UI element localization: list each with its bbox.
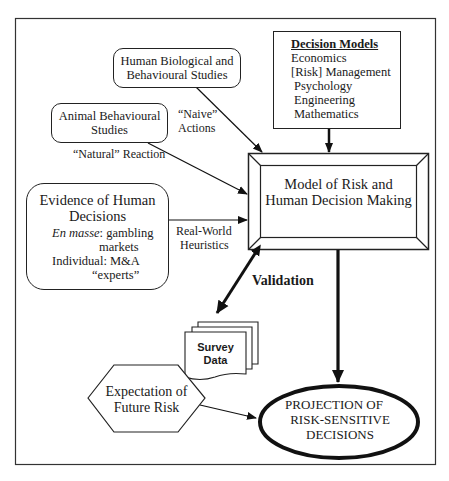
expectation-line-1: Expectation of	[88, 384, 205, 400]
validation-label: Validation	[252, 274, 314, 288]
decision-model-item: Engineering	[294, 93, 355, 107]
survey-line-1: Survey	[185, 341, 246, 354]
projection-line-1: PROJECTION OF	[268, 397, 400, 412]
human-bio-line-1: Human Biological and	[114, 54, 240, 68]
animal-line-1: Animal Behavioural	[52, 109, 167, 123]
expectation-line-2: Future Risk	[88, 400, 205, 416]
evidence-human-decisions-node: Evidence of Human Decisions En masse: ga…	[26, 183, 169, 290]
evidence-individual: Individual: M&A	[52, 254, 140, 268]
decision-model-item: Psychology	[294, 79, 352, 93]
human-bio-line-2: Behavioural Studies	[114, 68, 240, 82]
decision-model-item: Mathematics	[294, 107, 359, 121]
survey-line-2: Data	[185, 354, 246, 367]
projection-line-3: DECISIONS	[274, 427, 406, 442]
evidence-title-line-2: Decisions	[27, 208, 168, 224]
model-line-1: Model of Risk and	[260, 176, 417, 192]
evidence-en-masse: En masse: gambling	[52, 226, 153, 240]
real-world-label-line-1: Real-World	[176, 224, 232, 238]
real-world-label-line-2: Heuristics	[180, 238, 229, 252]
evidence-title-line-1: Evidence of Human	[27, 192, 168, 208]
naive-label-line-2: Actions	[178, 121, 215, 135]
animal-line-2: Studies	[52, 123, 167, 137]
model-line-2: Human Decision Making	[260, 192, 417, 208]
naive-label-line-1: “Naive”	[178, 107, 217, 121]
decision-models-title: Decision Models	[291, 37, 378, 51]
decision-models-node: Decision Models Economics [Risk] Managem…	[273, 31, 401, 129]
evidence-experts: “experts”	[92, 268, 139, 282]
decision-model-item: [Risk] Management	[291, 65, 391, 79]
en-masse-text: : gambling	[100, 226, 154, 240]
projection-line-2: RISK-SENSITIVE	[274, 412, 406, 427]
natural-reaction-label: “Natural” Reaction	[73, 147, 165, 161]
animal-studies-node: Animal Behavioural Studies	[51, 103, 168, 143]
human-bio-studies-node: Human Biological and Behavioural Studies	[113, 48, 241, 88]
evidence-markets: markets	[99, 240, 139, 254]
decision-model-item: Economics	[291, 51, 347, 65]
en-masse-label: En masse	[52, 226, 100, 240]
